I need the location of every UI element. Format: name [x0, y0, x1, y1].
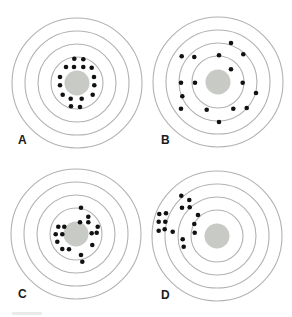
shot-dot: [89, 231, 94, 236]
shot-dot: [69, 104, 74, 109]
shot-dot: [86, 214, 91, 219]
shot-dot: [78, 220, 83, 225]
bullseye: [205, 224, 230, 249]
shot-dot: [240, 80, 245, 85]
bullseye: [206, 70, 231, 95]
shot-dot: [55, 239, 60, 244]
shot-dot: [56, 224, 61, 229]
shot-dot: [204, 107, 209, 112]
shot-dot: [68, 96, 73, 101]
shot-dot: [60, 232, 65, 237]
bullseye: [65, 71, 90, 96]
shot-dot: [229, 41, 234, 46]
shot-dot: [86, 220, 91, 225]
shot-dot: [53, 232, 58, 237]
shot-dot: [187, 198, 192, 203]
target-d: [152, 171, 282, 301]
shot-dot: [64, 65, 69, 70]
shot-dot: [163, 219, 168, 224]
shot-dot: [192, 230, 197, 235]
shot-dot: [156, 219, 161, 224]
shot-dot: [67, 247, 72, 252]
shot-dot: [89, 65, 94, 70]
shot-dot: [181, 244, 186, 249]
shot-dot: [244, 106, 249, 111]
shot-dot: [231, 106, 236, 111]
shot-dot: [193, 80, 198, 85]
bullseye: [64, 222, 89, 247]
figure-canvas: A B C D: [0, 0, 292, 317]
shot-dot: [60, 92, 65, 97]
shot-dot: [217, 120, 222, 125]
shot-dot: [92, 83, 97, 88]
shot-dot: [254, 91, 259, 96]
shot-dot: [58, 83, 63, 88]
shot-dot: [94, 230, 99, 235]
shot-dot: [79, 253, 84, 258]
shot-dot: [60, 247, 65, 252]
shot-dot: [90, 243, 95, 248]
shot-dot: [58, 75, 63, 80]
panel-label-a: A: [18, 134, 27, 146]
target-c: [11, 169, 141, 299]
panel-label-d: D: [161, 289, 170, 301]
shot-dot: [72, 65, 77, 70]
shot-dot: [179, 54, 184, 59]
shot-dot: [92, 75, 97, 80]
shot-dot: [196, 213, 201, 218]
panel-label-c: C: [18, 288, 27, 300]
shot-dot: [180, 205, 185, 210]
target-a: [12, 18, 142, 148]
shot-dot: [81, 57, 86, 62]
shot-dot: [95, 224, 100, 229]
shot-dot: [217, 53, 222, 58]
shot-dot: [179, 193, 184, 198]
shot-dot: [90, 92, 95, 97]
shot-dot: [180, 94, 185, 99]
shot-dot: [192, 55, 197, 60]
shot-dot: [157, 212, 162, 217]
shot-dot: [81, 65, 86, 70]
shot-dot: [229, 67, 234, 72]
shot-dot: [162, 227, 167, 232]
shot-dot: [79, 96, 84, 101]
shot-dot: [79, 205, 84, 210]
shot-dot: [241, 52, 246, 57]
shot-dot: [179, 106, 184, 111]
shot-dot: [192, 222, 197, 227]
panel-label-b: B: [161, 134, 170, 146]
shot-dot: [80, 259, 85, 264]
shot-dot: [156, 228, 161, 233]
shot-dot: [78, 105, 83, 110]
shot-dot: [187, 205, 192, 210]
shot-dot: [170, 229, 175, 234]
targets-figure: [0, 0, 292, 317]
shot-dot: [180, 237, 185, 242]
shot-dot: [62, 224, 67, 229]
shot-dot: [72, 56, 77, 61]
cropped-caption-artifact: [12, 312, 42, 315]
shot-dot: [164, 211, 169, 216]
target-b: [153, 17, 283, 147]
shot-dot: [179, 80, 184, 85]
